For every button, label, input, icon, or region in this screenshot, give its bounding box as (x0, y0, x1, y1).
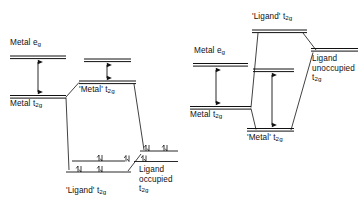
right-mo-ligand-t2g-label: 'Ligand' t2g (252, 12, 292, 23)
left-ligand-occupied-label: Ligand occupied t2g (139, 165, 191, 195)
mo-upper-level (253, 69, 294, 72)
left-metal-t2g-label: Metal t2g (10, 99, 42, 110)
right-metal-t2g-label: Metal t2g (190, 110, 222, 121)
mo-metal-t2g-level (79, 81, 136, 84)
right-ligand-unoccupied-label: Ligand unoccupied t2g (312, 54, 362, 84)
ligand-unoccupied-level (311, 49, 358, 52)
ligand-occupied-levels (134, 151, 178, 162)
mo-upper-level (84, 59, 131, 62)
mo-energy-level-figure: Metal eg Metal t2g 'Metal' t2g 'Ligand' … (0, 0, 362, 214)
left-mo-ligand-t2g-label: 'Ligand' t2g (66, 186, 106, 197)
left-metal-eg-label: Metal eg (10, 38, 41, 49)
right-correlation-lines (251, 33, 316, 130)
left-panel-levels (10, 56, 178, 172)
left-mo-metal-t2g-label: 'Metal' t2g (79, 85, 115, 96)
metal-eg-level (193, 64, 248, 67)
metal-t2g-level (190, 107, 251, 110)
metal-t2g-level (10, 96, 66, 99)
mo-ligand-t2g-level (252, 30, 307, 33)
right-mo-metal-t2g-label: 'Metal' t2g (247, 133, 283, 144)
metal-eg-level (10, 56, 66, 59)
mo-metal-t2g-level (247, 129, 294, 132)
right-metal-eg-label: Metal eg (194, 46, 225, 57)
